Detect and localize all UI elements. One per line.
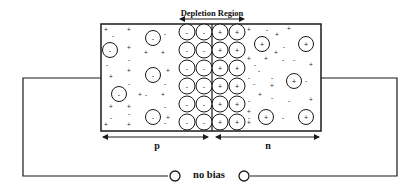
electron-carrier: - xyxy=(248,114,250,121)
electron-carrier: - xyxy=(258,67,260,74)
electron-carrier: - xyxy=(164,119,166,126)
acceptor-ion-icon: - xyxy=(196,78,212,94)
hole-carrier: + xyxy=(109,103,113,110)
hole-carrier: + xyxy=(161,49,165,56)
hole-carrier: + xyxy=(247,55,251,62)
hole-carrier: + xyxy=(109,73,113,80)
electron-carrier: - xyxy=(271,74,273,81)
donor-ion-icon: + xyxy=(212,24,228,40)
electron-carrier: - xyxy=(271,94,273,101)
hole-carrier: + xyxy=(166,67,170,74)
hole-carrier: + xyxy=(127,26,131,33)
donor-ion-icon: + xyxy=(299,110,314,125)
bias-label: no bias xyxy=(193,169,225,180)
hole-carrier: + xyxy=(270,82,274,89)
electron-carrier: - xyxy=(305,77,307,84)
electron-carrier: - xyxy=(164,103,166,110)
acceptor-ion-icon: - xyxy=(196,24,212,40)
acceptor-ion-icon: - xyxy=(146,31,161,46)
p-region-label: p xyxy=(154,140,160,151)
acceptor-ion-icon: - xyxy=(196,96,212,112)
hole-carrier: + xyxy=(104,121,108,128)
hole-carrier: + xyxy=(258,91,262,98)
hole-carrier: + xyxy=(127,121,131,128)
donor-ion-icon: + xyxy=(229,24,245,40)
hole-carrier: + xyxy=(104,26,108,33)
acceptor-ion-icon: - xyxy=(179,96,195,112)
acceptor-ion-icon: - xyxy=(179,24,195,40)
electron-carrier: - xyxy=(253,80,255,87)
positive-charge-symbol: + xyxy=(235,101,239,108)
acceptor-ion-icon: - xyxy=(179,60,195,76)
donor-ion-icon: + xyxy=(255,37,270,52)
hole-carrier: + xyxy=(138,91,142,98)
hole-carrier: + xyxy=(127,44,131,51)
electron-carrier: - xyxy=(128,80,130,87)
positive-charge-symbol: + xyxy=(235,65,239,72)
positive-charge-symbol: + xyxy=(235,47,239,54)
hole-carrier: + xyxy=(287,25,291,32)
hole-carrier: + xyxy=(309,61,313,68)
positive-charge-symbol: + xyxy=(218,29,222,36)
depletion-region-indicator: Depletion Region xyxy=(180,8,244,19)
acceptor-ion-icon: - xyxy=(112,87,127,102)
right-terminal xyxy=(239,171,249,181)
electron-carrier: - xyxy=(164,80,166,87)
positive-charge-symbol: + xyxy=(218,65,222,72)
positive-charge-symbol: + xyxy=(218,47,222,54)
hole-carrier: + xyxy=(127,67,131,74)
acceptor-ion-icon: - xyxy=(196,42,212,58)
acceptor-ion-icon: - xyxy=(103,43,118,58)
positive-charge-symbol: + xyxy=(218,83,222,90)
hole-carrier: + xyxy=(264,55,268,62)
electron-carrier: - xyxy=(293,56,295,63)
right-wire xyxy=(250,78,397,176)
positive-charge-symbol: + xyxy=(304,114,308,121)
n-region-label: n xyxy=(265,140,271,151)
hole-carrier: + xyxy=(309,96,313,103)
positive-charge-symbol: + xyxy=(260,41,264,48)
electron-carrier: - xyxy=(164,30,166,37)
donor-ion-icon: + xyxy=(212,42,228,58)
donor-ion-icon: + xyxy=(259,110,274,125)
donor-ion-icon: + xyxy=(212,114,228,130)
positive-charge-symbol: + xyxy=(235,83,239,90)
hole-carrier: + xyxy=(274,49,278,56)
acceptor-ion-icon: - xyxy=(146,68,161,83)
positive-charge-symbol: + xyxy=(235,29,239,36)
electron-carrier: - xyxy=(248,97,250,104)
acceptor-ion-icon: - xyxy=(146,110,161,125)
donor-ion-icon: + xyxy=(229,114,245,130)
electron-carrier: - xyxy=(282,114,284,121)
donor-ion-icon: + xyxy=(229,96,245,112)
electron-carrier: - xyxy=(254,61,256,68)
electron-carrier: - xyxy=(106,61,108,68)
electron-carrier: - xyxy=(282,56,284,63)
positive-charge-symbol: + xyxy=(218,101,222,108)
hole-carrier: + xyxy=(275,31,279,38)
acceptor-ion-icon: - xyxy=(179,42,195,58)
electron-carrier: - xyxy=(266,26,268,33)
donor-ion-icon: + xyxy=(229,78,245,94)
depletion-region-label: Depletion Region xyxy=(181,8,244,18)
donor-ion-icon: + xyxy=(212,96,228,112)
donor-ion-icon: + xyxy=(287,74,302,89)
electron-carrier: - xyxy=(145,91,147,98)
donor-ion-icon: + xyxy=(212,78,228,94)
hole-carrier: + xyxy=(161,91,165,98)
electron-carrier: - xyxy=(248,74,250,81)
electron-carrier: - xyxy=(128,110,130,117)
hole-carrier: + xyxy=(144,49,148,56)
donor-ion-icon: + xyxy=(212,60,228,76)
electron-carrier: - xyxy=(283,43,285,50)
positive-charge-symbol: + xyxy=(304,41,308,48)
positive-charge-symbol: + xyxy=(292,78,296,85)
acceptor-ion-icon: - xyxy=(179,78,195,94)
electron-carrier: - xyxy=(112,32,114,39)
hole-carrier: + xyxy=(247,26,251,33)
pn-junction-diagram: Depletion Region ------------+++++++++++… xyxy=(0,0,418,189)
donor-ion-icon: + xyxy=(299,37,314,52)
acceptor-ion-icon: - xyxy=(196,114,212,130)
positive-charge-symbol: + xyxy=(264,114,268,121)
acceptor-ion-icon: - xyxy=(179,114,195,130)
